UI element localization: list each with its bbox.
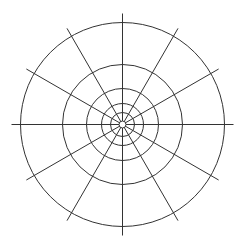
polar-grid-diagram	[0, 0, 241, 246]
radial-spokes	[12, 14, 234, 236]
ring-1	[119, 121, 126, 128]
